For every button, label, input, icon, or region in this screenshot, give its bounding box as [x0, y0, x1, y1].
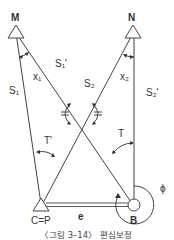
label-s1-prime: S₁' [55, 58, 67, 69]
phi-arrowhead [115, 193, 121, 198]
station-c-triangle [33, 198, 49, 211]
label-x2: x₂ [120, 71, 129, 82]
label-n: N [128, 12, 135, 23]
t-prime-arrow-right [51, 153, 55, 157]
label-phi: ϕ [160, 183, 166, 194]
label-s1: S₁ [9, 85, 20, 96]
line-m-b-s1prime [16, 33, 131, 202]
label-s2: S₂ [84, 78, 95, 89]
label-c-p: C=P [31, 215, 51, 226]
x2-arrow-left [123, 54, 127, 58]
station-b-circle [128, 199, 140, 211]
label-t-prime: T' [44, 135, 52, 146]
eccentric-correction-diagram: M N S₁ S₁' S₂ S₂' x₁ x₂ T' T ϕ e C=P B 〈… [0, 0, 174, 240]
label-e: e [78, 211, 84, 222]
figure-caption: 〈그림 3–14〉 편심보정 [40, 230, 132, 240]
t-arrow-right [130, 141, 134, 145]
station-m-triangle [8, 25, 24, 38]
t-prime-arrow-left [36, 150, 40, 154]
label-m: M [11, 12, 19, 23]
label-x1: x₁ [33, 71, 42, 82]
label-t: T [118, 128, 124, 139]
station-n-triangle [125, 25, 141, 38]
x2-arrow-right [130, 55, 134, 59]
label-s2-prime: S₂' [146, 87, 159, 98]
line-m-c-s1 [16, 33, 41, 204]
label-b: B [130, 215, 137, 226]
